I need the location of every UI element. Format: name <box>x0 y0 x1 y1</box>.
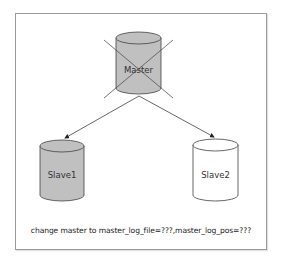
master-database-icon: Master <box>116 32 161 94</box>
master-label: Master <box>124 65 154 75</box>
slave1-label: Slave1 <box>48 170 77 180</box>
slave2-database-icon: Slave2 <box>193 139 238 201</box>
slave1-database-icon: Slave1 <box>40 140 84 201</box>
edge-master-slave1 <box>65 96 139 138</box>
diagram-caption: change master to master_log_file=???,mas… <box>15 226 267 235</box>
edge-master-slave2 <box>139 96 214 137</box>
diagram-canvas: Master Slave1 Slave2 <box>0 0 281 263</box>
slave2-label: Slave2 <box>201 170 230 180</box>
